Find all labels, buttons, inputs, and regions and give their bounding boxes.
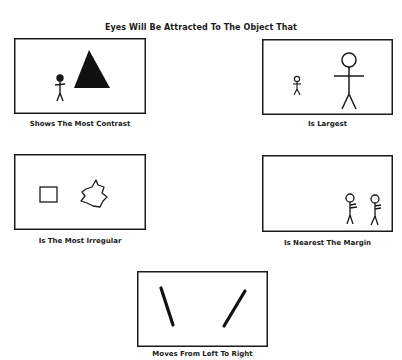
caption-largest: Is Largest	[262, 120, 393, 128]
stick-figure-icon	[371, 195, 381, 225]
forward-slash-stroke-icon	[224, 291, 245, 326]
caption-contrast: Shows The Most Contrast	[14, 120, 146, 128]
panel-contrast	[14, 38, 146, 114]
backslash-stroke-icon	[161, 288, 173, 325]
caption-margin: Is Nearest The Margin	[262, 239, 393, 247]
panel-irregular	[14, 154, 146, 230]
panel-movement	[137, 271, 268, 347]
diagram-title: Eyes Will Be Attracted To The Object Tha…	[0, 23, 402, 32]
stick-figure-icon	[55, 75, 65, 101]
irregular-blob-icon	[81, 180, 107, 207]
small-stick-figure-icon	[293, 76, 301, 95]
large-stick-figure-icon	[334, 53, 364, 109]
panel-margin	[262, 155, 393, 232]
filled-triangle-icon	[74, 50, 110, 88]
panel-largest	[262, 39, 393, 115]
caption-movement: Moves From Left To Right	[137, 350, 268, 358]
caption-irregular: Is The Most Irregular	[14, 237, 146, 245]
stick-figure-icon	[346, 194, 357, 224]
square-icon	[40, 187, 57, 202]
